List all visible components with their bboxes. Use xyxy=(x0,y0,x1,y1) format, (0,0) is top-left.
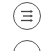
secondary-circle-button[interactable] xyxy=(13,40,41,51)
list-arrows-icon xyxy=(14,3,39,28)
list-arrows-button[interactable] xyxy=(13,2,41,30)
